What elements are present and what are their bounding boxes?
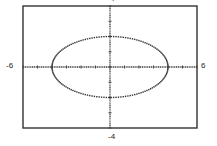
xmin-label: -6 (6, 62, 13, 70)
graph-window (0, 0, 217, 146)
axes (23, 6, 197, 128)
xmax-label: 6 (201, 62, 205, 70)
ymin-label: -4 (108, 133, 115, 141)
ymax-label: 4 (110, 0, 114, 3)
